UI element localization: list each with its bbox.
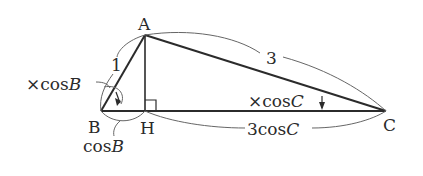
vertex-label-B: B (88, 117, 101, 137)
triangle-diagram: A B H C 1 3 cosB 3cosC ×cosB ×cosC (0, 0, 423, 176)
operation-label-times-cosC-var: C (291, 91, 304, 111)
right-angle-mark (145, 100, 156, 111)
operation-label-times-cosC: ×cosC (248, 91, 304, 111)
operation-label-times-cosB: ×cosB (26, 74, 81, 94)
arc-times-cosB-leader (96, 82, 110, 88)
vertex-label-A: A (137, 14, 151, 34)
vertex-label-C: C (383, 115, 396, 135)
operation-label-times-cosB-prefix: ×cos (26, 74, 69, 94)
arc-HC-right (312, 111, 386, 128)
side-label-BH-var: B (110, 136, 124, 156)
arc-BH (101, 111, 145, 121)
arc-AB (117, 35, 145, 57)
side-label-BH: cosB (83, 136, 124, 156)
vertex-label-H: H (140, 118, 155, 138)
side-label-AC: 3 (266, 48, 277, 68)
side-label-HC: 3cosC (247, 119, 299, 139)
side-label-BH-prefix: cos (83, 136, 111, 156)
arc-BH-leader (114, 121, 120, 136)
side-label-AB: 1 (111, 55, 122, 75)
operation-label-times-cosC-prefix: ×cos (248, 91, 291, 111)
arrowhead-cosC-icon (319, 102, 325, 110)
triangle-lines (101, 35, 386, 111)
operation-label-times-cosB-var: B (68, 74, 82, 94)
side-label-HC-prefix: 3cos (247, 119, 286, 139)
side-label-HC-var: C (286, 119, 299, 139)
arc-HC-left (145, 111, 245, 128)
arc-AC-left (145, 32, 260, 53)
